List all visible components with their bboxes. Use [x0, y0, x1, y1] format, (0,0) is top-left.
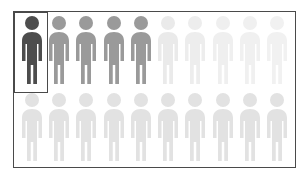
person-icon [212, 15, 234, 85]
person-icon [239, 92, 261, 162]
person-icon [239, 15, 261, 85]
pictogram-row-top [14, 15, 295, 91]
person-icon [103, 92, 125, 162]
person-icon [21, 92, 43, 162]
person-icon [184, 92, 206, 162]
pictogram-figure-figure-6 [154, 15, 181, 91]
pictogram-figure-figure-14 [100, 92, 127, 168]
person-icon [212, 92, 234, 162]
person-icon [266, 15, 288, 85]
person-icon [75, 92, 97, 162]
pictogram-figure-figure-20 [264, 92, 291, 168]
pictogram-figure-figure-12 [45, 92, 72, 168]
pictogram-figure-figure-18 [209, 92, 236, 168]
person-icon [75, 15, 97, 85]
pictogram-figure-figure-7 [182, 15, 209, 91]
pictogram-figure-figure-3 [73, 15, 100, 91]
person-icon [48, 15, 70, 85]
pictogram-figure-figure-5 [127, 15, 154, 91]
pictogram-figure-figure-15 [127, 92, 154, 168]
pictogram-figure-figure-1 [18, 15, 45, 91]
person-icon [103, 15, 125, 85]
person-icon [157, 92, 179, 162]
pictogram-figure-figure-9 [236, 15, 263, 91]
pictogram-figure-figure-16 [154, 92, 181, 168]
pictogram-figure-figure-19 [236, 92, 263, 168]
pictogram-figure-figure-4 [100, 15, 127, 91]
person-icon [130, 92, 152, 162]
pictogram-figure-figure-10 [264, 15, 291, 91]
pictogram-figure-figure-11 [18, 92, 45, 168]
person-icon [130, 15, 152, 85]
pictogram-infographic [0, 0, 308, 180]
person-icon [48, 92, 70, 162]
pictogram-figure-figure-13 [73, 92, 100, 168]
pictogram-row-bottom [14, 92, 295, 168]
pictogram-figure-figure-17 [182, 92, 209, 168]
person-icon [21, 15, 43, 85]
pictogram-figure-figure-8 [209, 15, 236, 91]
person-icon [184, 15, 206, 85]
chart-frame [13, 11, 296, 168]
person-icon [266, 92, 288, 162]
person-icon [157, 15, 179, 85]
pictogram-figure-figure-2 [45, 15, 72, 91]
